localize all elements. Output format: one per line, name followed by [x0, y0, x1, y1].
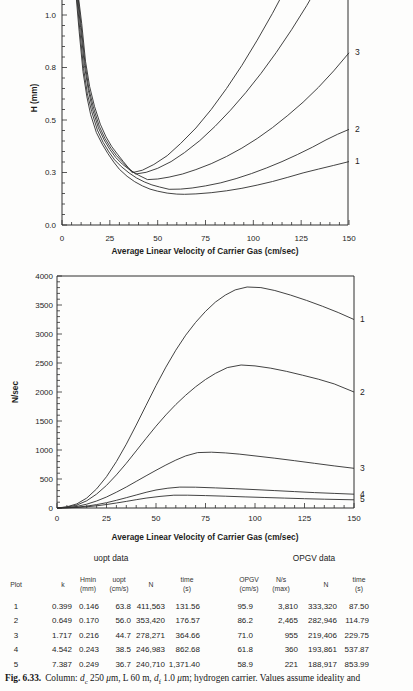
column-header-9: time: [329, 576, 389, 584]
caption-figure-label: Fig. 6.33.: [5, 673, 41, 683]
figure-caption: Fig. 6.33.Column: dc 250 μm, L 60 m, df …: [5, 673, 413, 685]
table-cell-row3-col9: 229.75: [299, 631, 369, 641]
caption-text-segment: 250: [88, 673, 107, 683]
table-cell-row4-col9: 537.87: [299, 645, 369, 655]
caption-text-segment: m; hydrogen carrier. Values assume ideal…: [182, 673, 360, 683]
column-header-unit-5: (s): [157, 585, 217, 593]
table-cell-row5-col9: 853.99: [299, 660, 369, 670]
caption-text-segment: Column:: [45, 673, 80, 683]
column-header-unit-9: (s): [329, 585, 389, 593]
table-cell-row1-col9: 87.50: [299, 602, 369, 612]
figure-6-33: 02550751001251500.00.30.50.81.0123Averag…: [0, 0, 413, 691]
performance-table: PlotkHmin(mm)uopt(cm/s)Ntime(s)OPGV(cm/s…: [0, 0, 413, 691]
column-header-5: time: [157, 576, 217, 584]
caption-text-segment: m, L 60 m,: [111, 673, 154, 683]
caption-text-segment: 1.0: [161, 673, 177, 683]
table-cell-row2-col9: 114.79: [299, 616, 369, 626]
